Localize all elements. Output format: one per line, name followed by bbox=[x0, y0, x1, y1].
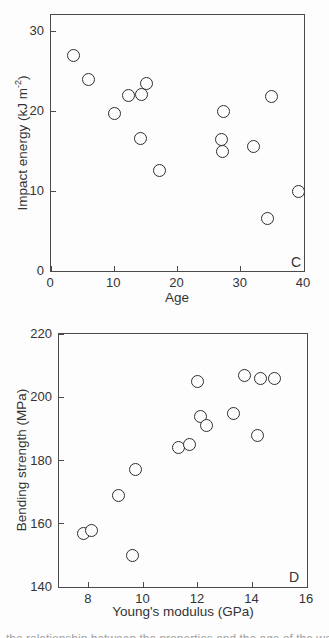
x-tick-label: 10 bbox=[125, 591, 159, 606]
y-tick-label: 220 bbox=[16, 326, 52, 341]
data-point bbox=[247, 140, 260, 153]
y-tick bbox=[59, 587, 64, 588]
y-axis-label-impact-energy-close: ) bbox=[15, 76, 30, 81]
cropped-caption-text: the relationship between the properties … bbox=[0, 632, 329, 638]
data-point bbox=[217, 105, 230, 118]
data-point bbox=[122, 89, 135, 102]
y-tick-label: 200 bbox=[16, 389, 52, 404]
data-point bbox=[227, 407, 240, 420]
y-tick-label: 20 bbox=[8, 103, 44, 118]
x-tick-label: 12 bbox=[180, 591, 214, 606]
data-point bbox=[261, 212, 274, 225]
y-axis-label-impact-energy: Impact energy (kJ m-2) bbox=[10, 58, 26, 228]
x-tick bbox=[114, 266, 115, 271]
y-tick-label: 0 bbox=[8, 263, 44, 278]
data-point bbox=[200, 419, 213, 432]
y-tick-label: 30 bbox=[8, 23, 44, 38]
x-axis-label-age: Age bbox=[137, 290, 217, 305]
y-tick bbox=[59, 460, 64, 461]
y-tick-label: 160 bbox=[16, 516, 52, 531]
x-tick-label: 20 bbox=[160, 275, 194, 290]
data-point bbox=[216, 145, 229, 158]
y-tick bbox=[59, 397, 64, 398]
data-point bbox=[108, 107, 121, 120]
plot-area-impact-energy-vs-age bbox=[50, 14, 305, 272]
data-point bbox=[112, 489, 125, 502]
y-tick bbox=[59, 523, 64, 524]
x-tick-label: 14 bbox=[234, 591, 268, 606]
x-tick bbox=[88, 582, 89, 587]
data-point bbox=[126, 549, 139, 562]
panel-letter-d: D bbox=[289, 569, 299, 585]
data-point bbox=[268, 372, 281, 385]
cropped-caption-line: the relationship between the properties … bbox=[0, 627, 329, 638]
x-tick bbox=[143, 582, 144, 587]
x-tick-label: 8 bbox=[71, 591, 105, 606]
x-tick-label: 40 bbox=[286, 275, 320, 290]
x-tick bbox=[197, 582, 198, 587]
data-point bbox=[238, 369, 251, 382]
panel-letter-c: C bbox=[291, 254, 301, 270]
y-axis-label-impact-energy-superscript: -2 bbox=[13, 80, 23, 88]
data-point bbox=[67, 49, 80, 62]
y-tick bbox=[59, 334, 64, 335]
data-point bbox=[134, 132, 147, 145]
x-tick bbox=[252, 582, 253, 587]
y-tick bbox=[51, 31, 56, 32]
x-tick-label: 16 bbox=[289, 591, 323, 606]
data-point bbox=[183, 438, 196, 451]
scatter-figure: Impact energy (kJ m-2) Age C Bending str… bbox=[0, 0, 329, 638]
x-tick bbox=[177, 266, 178, 271]
data-point bbox=[251, 429, 264, 442]
y-tick-label: 180 bbox=[16, 453, 52, 468]
x-tick-label: 10 bbox=[96, 275, 130, 290]
data-point bbox=[140, 77, 153, 90]
data-point bbox=[129, 463, 142, 476]
x-tick bbox=[304, 266, 305, 271]
x-axis-label-youngs-modulus: Young's modulus (GPa) bbox=[83, 604, 283, 619]
y-tick bbox=[51, 191, 56, 192]
y-tick bbox=[51, 111, 56, 112]
data-point bbox=[85, 524, 98, 537]
x-tick bbox=[240, 266, 241, 271]
data-point bbox=[153, 164, 166, 177]
data-point bbox=[82, 73, 95, 86]
data-point bbox=[292, 185, 305, 198]
data-point bbox=[135, 88, 148, 101]
x-tick bbox=[307, 582, 308, 587]
data-point bbox=[191, 375, 204, 388]
data-point bbox=[265, 90, 278, 103]
y-tick-label: 10 bbox=[8, 183, 44, 198]
x-tick-label: 30 bbox=[223, 275, 257, 290]
y-tick-label: 140 bbox=[16, 579, 52, 594]
y-tick bbox=[51, 271, 56, 272]
plot-area-bending-strength-vs-youngs-modulus bbox=[58, 333, 308, 588]
data-point bbox=[254, 372, 267, 385]
